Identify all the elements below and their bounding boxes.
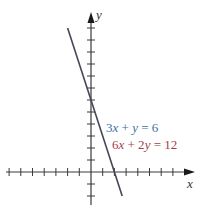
eq1-op: +: [118, 120, 132, 135]
y-axis-arrow-icon: [88, 12, 95, 23]
x-axis-label: x: [186, 176, 193, 191]
x-axis-arrow-icon: [184, 169, 195, 176]
coordinate-plane: y x 3x + y = 6 6x + 2y = 12: [0, 0, 198, 210]
eq2-op: + 2: [124, 137, 144, 152]
equation-label-1: 3x + y = 6: [106, 120, 159, 135]
y-axis-label: y: [94, 7, 102, 22]
equation-label-2: 6x + 2y = 12: [112, 137, 177, 152]
eq1-rhs: = 6: [138, 120, 159, 135]
axes: [6, 12, 195, 205]
eq2-rhs: = 12: [150, 137, 177, 152]
plotted-lines: [68, 28, 123, 196]
line-3x-plus-y-eq-6: [68, 28, 123, 196]
